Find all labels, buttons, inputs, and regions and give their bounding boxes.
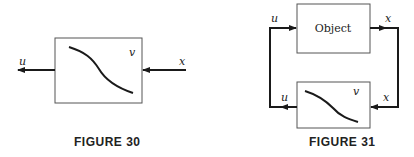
output-label-u: u [19,55,26,68]
object-input-label-u: u [271,12,278,25]
object-output-label-x: x [385,12,392,25]
figure-31-caption: FIGURE 31 [309,135,376,149]
figure-31: Object v u x u x [270,4,398,128]
characteristic-curve [69,47,133,93]
controller-output-label-u: u [281,91,288,104]
figure-30-caption: FIGURE 30 [74,135,141,149]
object-label: Object [315,22,352,35]
controller-curve [305,91,358,122]
input-label-x: x [179,55,186,68]
controller-input-label-x: x [383,91,390,104]
controller-label-v: v [353,85,360,98]
block-label-v: v [129,46,136,59]
figure-30: v x u [18,38,186,103]
diagram-canvas: v x u Object v u x u x [0,0,414,157]
